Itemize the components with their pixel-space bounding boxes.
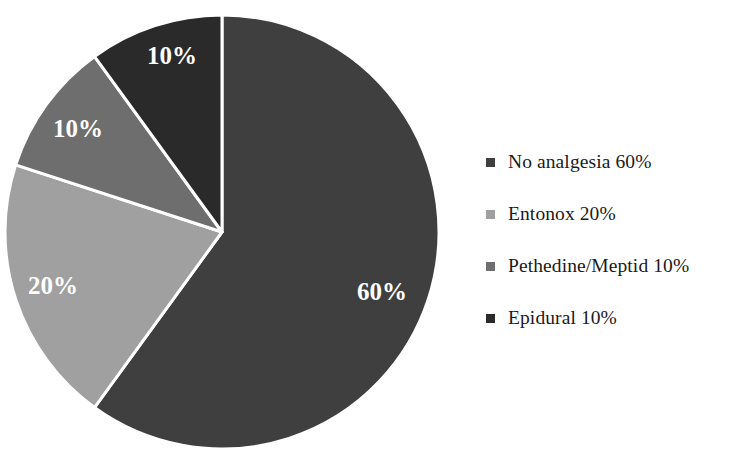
legend-swatch-icon: [486, 262, 495, 271]
legend-item[interactable]: Pethedine/Meptid 10%: [486, 240, 741, 292]
legend-swatch-icon: [486, 158, 495, 167]
pie-chart-plot-area: 60%20%10%10%: [0, 0, 460, 459]
legend-item-label: Pethedine/Meptid 10%: [508, 255, 689, 277]
legend-swatch-icon: [486, 314, 495, 323]
legend-item[interactable]: Epidural 10%: [486, 292, 741, 344]
pie-chart-svg: 60%20%10%10%: [0, 0, 460, 459]
pie-slice-group: [5, 15, 439, 449]
pie-chart-figure: 60%20%10%10% No analgesia 60%Entonox 20%…: [0, 0, 743, 459]
pie-slice-label: 60%: [357, 278, 407, 305]
pie-slice-label: 20%: [28, 272, 78, 299]
legend-item-label: Epidural 10%: [508, 307, 617, 329]
chart-legend: No analgesia 60%Entonox 20%Pethedine/Mep…: [486, 136, 741, 344]
legend-item[interactable]: No analgesia 60%: [486, 136, 741, 188]
pie-slice-label: 10%: [53, 115, 103, 142]
legend-item-label: No analgesia 60%: [508, 151, 651, 173]
legend-swatch-icon: [486, 210, 495, 219]
legend-item-label: Entonox 20%: [508, 203, 616, 225]
pie-slice-label: 10%: [147, 42, 197, 69]
legend-item[interactable]: Entonox 20%: [486, 188, 741, 240]
